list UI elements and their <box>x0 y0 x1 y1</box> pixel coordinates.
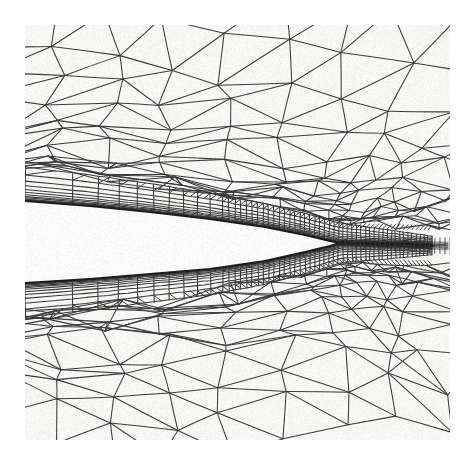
mesh-figure: Unstructured hybrid mesh near airfoil tr… <box>0 0 460 470</box>
mesh-canvas <box>0 0 460 470</box>
